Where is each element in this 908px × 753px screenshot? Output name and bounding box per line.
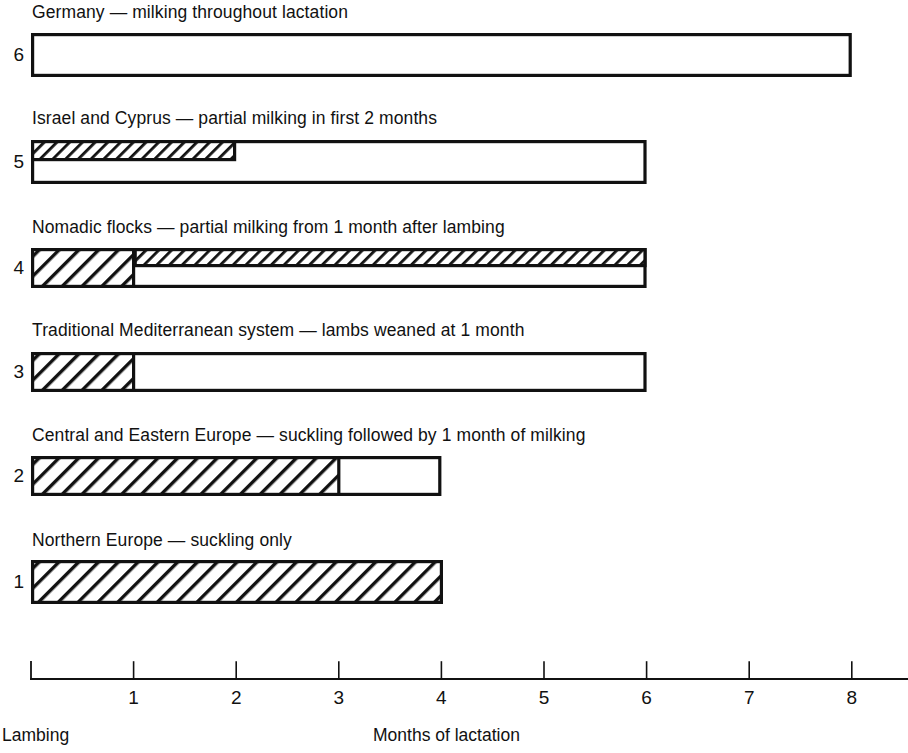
x-axis-tick-label: 5 <box>529 688 559 707</box>
row-number: 2 <box>0 466 24 485</box>
x-axis-tick-label: 4 <box>426 688 456 707</box>
row-caption: Traditional Mediterranean system — lambs… <box>32 322 524 340</box>
row-caption: Central and Eastern Europe — suckling fo… <box>32 427 585 445</box>
x-axis-tick-label: 3 <box>324 688 354 707</box>
row-number: 6 <box>0 45 24 64</box>
row-number: 4 <box>0 258 24 277</box>
x-axis-tick-label: 2 <box>221 688 251 707</box>
row-bar <box>25 27 858 83</box>
x-axis-tick-label: 7 <box>734 688 764 707</box>
row-caption: Northern Europe — suckling only <box>32 532 292 550</box>
row-caption: Israel and Cyprus — partial milking in f… <box>32 110 437 128</box>
row-bar <box>25 134 653 190</box>
row-caption: Nomadic flocks — partial milking from 1 … <box>32 219 505 237</box>
sheep-milking-systems-chart: Germany — milking throughout lactation6I… <box>0 0 908 753</box>
row-caption: Germany — milking throughout lactation <box>32 4 348 22</box>
row-bar <box>25 346 653 398</box>
row-bar <box>25 450 447 502</box>
suckling-segment <box>33 458 339 495</box>
row-number: 5 <box>0 152 24 171</box>
lambing-label: Lambing <box>2 727 69 745</box>
suckling-segment <box>33 250 134 287</box>
row-bar <box>25 242 653 294</box>
row-number: 3 <box>0 362 24 381</box>
x-axis-tick-label: 6 <box>632 688 662 707</box>
suckling-segment <box>33 354 134 391</box>
partial-milking-segment <box>33 142 235 160</box>
suckling-segment <box>33 562 442 603</box>
row-number: 1 <box>0 572 24 591</box>
x-axis-tick-label: 8 <box>837 688 867 707</box>
x-axis-title: Months of lactation <box>373 727 520 745</box>
x-axis-tick-label: 1 <box>119 688 149 707</box>
partial-milking-segment <box>135 250 645 266</box>
row-bar <box>25 554 447 610</box>
